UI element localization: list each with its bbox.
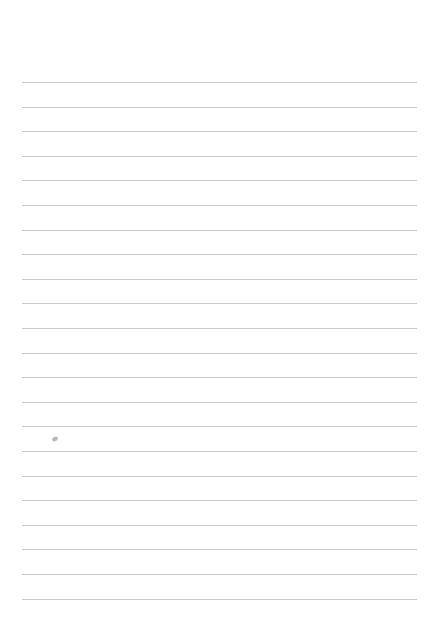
ruled-line bbox=[22, 549, 417, 550]
ruled-line bbox=[22, 131, 417, 132]
ruled-line bbox=[22, 353, 417, 354]
ruled-line bbox=[22, 156, 417, 157]
ruled-line bbox=[22, 180, 417, 181]
ruled-line bbox=[22, 599, 417, 600]
ruled-line bbox=[22, 230, 417, 231]
ruled-line bbox=[22, 279, 417, 280]
ruled-line bbox=[22, 402, 417, 403]
ruled-line bbox=[22, 205, 417, 206]
ruled-line bbox=[22, 82, 417, 83]
ruled-line bbox=[22, 426, 417, 427]
pencil-mark bbox=[51, 436, 58, 442]
ruled-line bbox=[22, 574, 417, 575]
ruled-line bbox=[22, 500, 417, 501]
ruled-line bbox=[22, 303, 417, 304]
ruled-line bbox=[22, 107, 417, 108]
ruled-line bbox=[22, 328, 417, 329]
ruled-line bbox=[22, 254, 417, 255]
ruled-line bbox=[22, 476, 417, 477]
ruled-line bbox=[22, 451, 417, 452]
ruled-line bbox=[22, 377, 417, 378]
ruled-line bbox=[22, 525, 417, 526]
